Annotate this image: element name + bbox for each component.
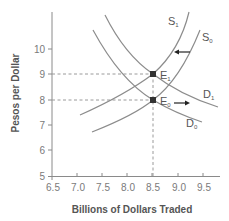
y-tick-label: 7 (39, 120, 45, 131)
label-e1: E1 (160, 69, 171, 82)
x-tick-label: 8.0 (121, 182, 135, 193)
label-s0: S0 (202, 31, 213, 44)
y-tick-label: 9 (39, 69, 45, 80)
demand-shift-arrow (174, 101, 190, 106)
demand-curve-d0 (93, 30, 202, 122)
supply-shift-arrow (174, 50, 190, 55)
x-tick-label: 7.5 (96, 182, 110, 193)
y-ticks (48, 49, 52, 177)
chart-canvas: 5 6 7 8 9 10 6.5 7.0 7.5 8.0 8.5 9.0 9.5… (0, 0, 229, 221)
y-tick-label: 10 (34, 44, 46, 55)
y-tick-label: 5 (39, 171, 45, 182)
label-d0: D0 (186, 117, 198, 130)
x-axis-title: Billions of Dollars Traded (72, 204, 193, 215)
equilibrium-point-e0 (150, 97, 156, 103)
x-tick-label: 6.5 (46, 182, 60, 193)
x-tick-label: 9.0 (172, 182, 186, 193)
equilibrium-point-e1 (150, 71, 156, 77)
y-tick-label: 8 (39, 95, 45, 106)
x-tick-label: 9.5 (197, 182, 211, 193)
y-tick-label: 6 (39, 145, 45, 156)
label-d1: D1 (203, 88, 215, 101)
curves (80, 12, 218, 132)
x-tick-labels: 6.5 7.0 7.5 8.0 8.5 9.0 9.5 (46, 182, 211, 193)
label-e0: E0 (160, 95, 171, 108)
x-tick-label: 8.5 (146, 182, 160, 193)
y-axis-title: Pesos per Dollar (10, 53, 21, 132)
x-tick-label: 7.0 (71, 182, 85, 193)
label-s1: S1 (168, 15, 179, 28)
supply-curve-s0 (92, 30, 200, 132)
y-tick-labels: 5 6 7 8 9 10 (34, 44, 46, 182)
axes (52, 12, 220, 177)
